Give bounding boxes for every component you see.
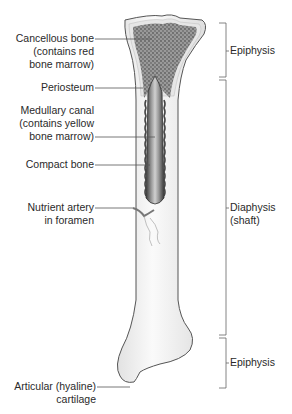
label-periosteum: Periosteum: [41, 81, 94, 94]
medullary-canal: [146, 76, 164, 204]
label-epiphysis-top: Epiphysis: [230, 44, 275, 57]
label-diaphysis: Diaphysis (shaft): [230, 201, 276, 227]
label-cancellous-bone: Cancellous bone (contains red bone marro…: [16, 32, 94, 71]
label-epiphysis-bottom: Epiphysis: [230, 356, 275, 369]
label-medullary-canal: Medullary canal (contains yellow bone ma…: [19, 104, 94, 143]
label-compact-bone: Compact bone: [26, 158, 94, 171]
brackets-right: [219, 23, 229, 388]
label-articular-cartilage: Articular (hyaline) cartilage: [14, 380, 96, 406]
label-nutrient-artery: Nutrient artery in foramen: [27, 201, 94, 227]
